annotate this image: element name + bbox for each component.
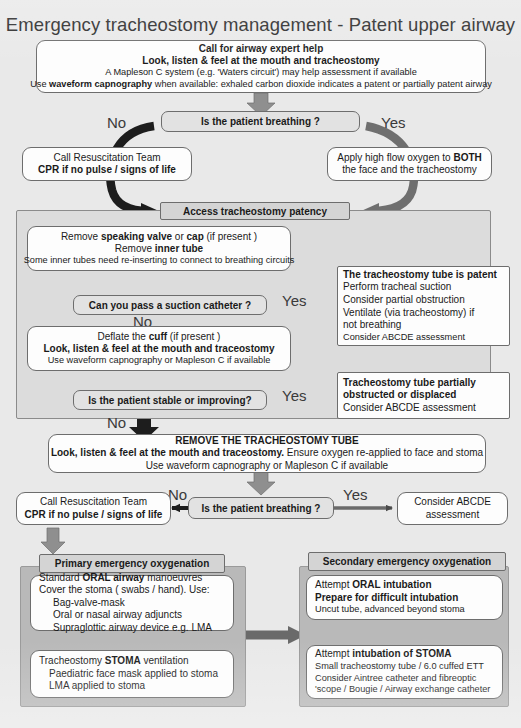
deflate-line-1: Deflate the cuff (if present ) [98, 331, 221, 343]
secondary-emergency-oxygenation-header: Secondary emergency oxygenation [308, 552, 506, 571]
consider-abcde-box: Consider ABCDE assessment [397, 492, 508, 525]
arrow-resus2-to-primary [41, 528, 65, 554]
primary1-line-3: Bag-valve-mask [39, 597, 225, 610]
branch-label-no-stable: No [107, 414, 126, 431]
removetube-line-1: REMOVE THE TRACHEOSTOMY TUBE [175, 435, 359, 447]
deflate-line-2: Look, listen & feel at the mouth and tra… [43, 343, 274, 355]
resus2-line-1: Call Resuscitation Team [40, 496, 147, 508]
decision-is-patient-breathing-2[interactable]: Is the patient breathing ? [188, 497, 334, 519]
secondary-header-label: Secondary emergency oxygenation [323, 556, 491, 567]
abcde-line-1: Consider ABCDE [414, 496, 491, 508]
decision-breathing-1-label: Is the patient breathing ? [201, 116, 320, 127]
initial-line-1: Call for airway expert help [199, 43, 324, 55]
initial-line-2: Look, listen & feel at the mouth and tra… [142, 55, 379, 67]
remove-line-1: Remove speaking valve or cap (if present… [61, 231, 257, 243]
decision-is-patient-breathing-1[interactable]: Is the patient breathing ? [161, 111, 360, 132]
removetube-line-3: Use waveform capnography or Mapleson C i… [146, 460, 388, 472]
decision-suction-label: Can you pass a suction catheter ? [89, 300, 251, 311]
apply-high-flow-oxygen-box: Apply high flow oxygen to BOTH the face … [327, 147, 492, 181]
secondary2-line-2: Small tracheostomy tube / 6.0 cuffed ETT [315, 661, 494, 673]
resus1-line-1: Call Resuscitation Team [53, 152, 160, 164]
oxygen-line-2: the face and the tracheostomy [342, 164, 477, 176]
patent-line-6: Consider ABCDE assessment [343, 332, 504, 344]
initial-line-4: Use waveform capnography when available:… [30, 79, 492, 90]
decision-stable-label: Is the patient stable or improving? [88, 395, 251, 406]
patent-line-5: not breathing [343, 319, 504, 332]
page-title: Emergency tracheostomy management - Pate… [0, 14, 521, 36]
access-header-label: Access tracheostomy patency [183, 206, 327, 217]
flowchart-page: Emergency tracheostomy management - Pate… [0, 0, 521, 728]
deflate-cuff-box: Deflate the cuff (if present ) Look, lis… [27, 326, 291, 371]
arrow-primary-to-secondary [243, 626, 306, 644]
removetube-line-2: Look, listen & feel at the mouth and tra… [51, 447, 483, 459]
primary1-line-2: Cover the stoma ( swabs / hand). Use: [39, 584, 225, 597]
secondary2-line-4: 'scope / Bougie / Airway exchange cathet… [315, 684, 494, 696]
obstructed-line-1: Tracheostomy tube partially [343, 377, 504, 390]
secondary2-line-1: Attempt intubation of STOMA [315, 648, 494, 661]
patent-line-2: Perform tracheal suction [343, 281, 504, 294]
remove-line-2: Remove inner tube [115, 243, 203, 255]
remove-speaking-valve-box: Remove speaking valve or cap (if present… [27, 226, 291, 271]
access-tracheostomy-patency-header: Access tracheostomy patency [160, 202, 350, 220]
patent-line-4: Ventilate (via tracheostomy) if [343, 307, 504, 320]
initial-actions-box: Call for airway expert help Look, listen… [36, 40, 486, 93]
branch-label-yes-2: Yes [343, 486, 367, 503]
secondary-oral-intubation-box: Attempt ORAL intubation Prepare for diff… [306, 575, 503, 620]
call-resuscitation-team-box-1: Call Resuscitation Team CPR if no pulse … [22, 147, 192, 181]
resus2-line-2: CPR if no pulse / signs of life [25, 509, 163, 521]
primary-stoma-ventilation-box: Tracheostomy STOMA ventilation Paediatri… [30, 650, 234, 698]
branch-label-yes-stable: Yes [282, 387, 306, 404]
primary-emergency-oxygenation-header: Primary emergency oxygenation [39, 554, 225, 573]
call-resuscitation-team-box-2: Call Resuscitation Team CPR if no pulse … [16, 492, 171, 525]
tracheostomy-patent-box: The tracheostomy tube is patent Perform … [337, 266, 510, 346]
secondary1-line-2: Prepare for difficult intubation [315, 592, 494, 605]
branch-label-yes-1: Yes [381, 114, 405, 131]
branch-label-no-1: No [107, 114, 126, 131]
secondary2-line-3: Consider Aintree catheter and fibreoptic [315, 673, 494, 685]
secondary1-line-3: Uncut tube, advanced beyond stoma [315, 604, 494, 616]
deflate-line-3: Use waveform capnography or Mapleson C i… [48, 355, 271, 366]
remove-tracheostomy-tube-box: REMOVE THE TRACHEOSTOMY TUBE Look, liste… [48, 434, 486, 473]
abcde-line-2: assessment [426, 509, 479, 521]
decision-breathing-2-label: Is the patient breathing ? [202, 503, 321, 514]
secondary-stoma-intubation-box: Attempt intubation of STOMA Small trache… [306, 645, 503, 699]
primary2-line-2: Paediatric face mask applied to stoma [39, 668, 225, 681]
primary1-line-4: Oral or nasal airway adjuncts [39, 609, 225, 622]
patent-line-1: The tracheostomy tube is patent [343, 269, 504, 282]
tube-obstructed-box: Tracheostomy tube partially obstructed o… [337, 372, 510, 419]
oxygen-line-1: Apply high flow oxygen to BOTH [337, 152, 482, 164]
secondary1-line-1: Attempt ORAL intubation [315, 579, 494, 592]
primary2-line-3: LMA applied to stoma [39, 680, 225, 693]
decision-suction-catheter[interactable]: Can you pass a suction catheter ? [73, 295, 267, 315]
resus1-line-2: CPR if no pulse / signs of life [38, 164, 176, 176]
primary1-line-5: Supraglottic airway device e.g. LMA [39, 622, 225, 635]
primary-oral-airway-box: Standard ORAL airway manoeuvres Cover th… [30, 575, 234, 631]
primary2-line-1: Tracheostomy STOMA ventilation [39, 655, 225, 668]
branch-label-yes-suction: Yes [282, 292, 306, 309]
arrow-removetube-to-breathing2 [247, 472, 275, 495]
initial-line-3: A Mapleson C system (e.g. 'Waters circui… [105, 67, 417, 78]
primary-header-label: Primary emergency oxygenation [55, 558, 210, 569]
obstructed-line-3: Consider ABCDE assessment [343, 402, 504, 415]
decision-patient-stable[interactable]: Is the patient stable or improving? [73, 390, 267, 410]
primary1-line-1: Standard ORAL airway manoeuvres [39, 572, 225, 585]
remove-line-3: Some inner tubes need re-inserting to co… [24, 255, 295, 266]
patent-line-3: Consider partial obstruction [343, 294, 504, 307]
obstructed-line-2: obstructed or displaced [343, 389, 504, 402]
